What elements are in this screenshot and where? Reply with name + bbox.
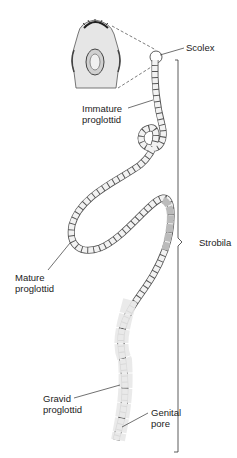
label-immature-line1: Immature [82,103,122,114]
label-immature-line2: proglottid [82,114,121,125]
label-strobila: Strobila [199,237,231,248]
scolex-enlarged-icon [72,19,120,88]
label-genital-line2: pore [151,418,170,429]
tapeworm-illustration [0,0,237,458]
label-gravid-line1: Gravid [43,393,71,404]
label-mature-line2: proglottid [15,283,54,294]
label-scolex: Scolex [186,42,215,53]
label-gravid-line2: proglottid [43,404,82,415]
label-mature-line1: Mature [15,272,45,283]
label-genital-line1: Genital [151,407,181,418]
